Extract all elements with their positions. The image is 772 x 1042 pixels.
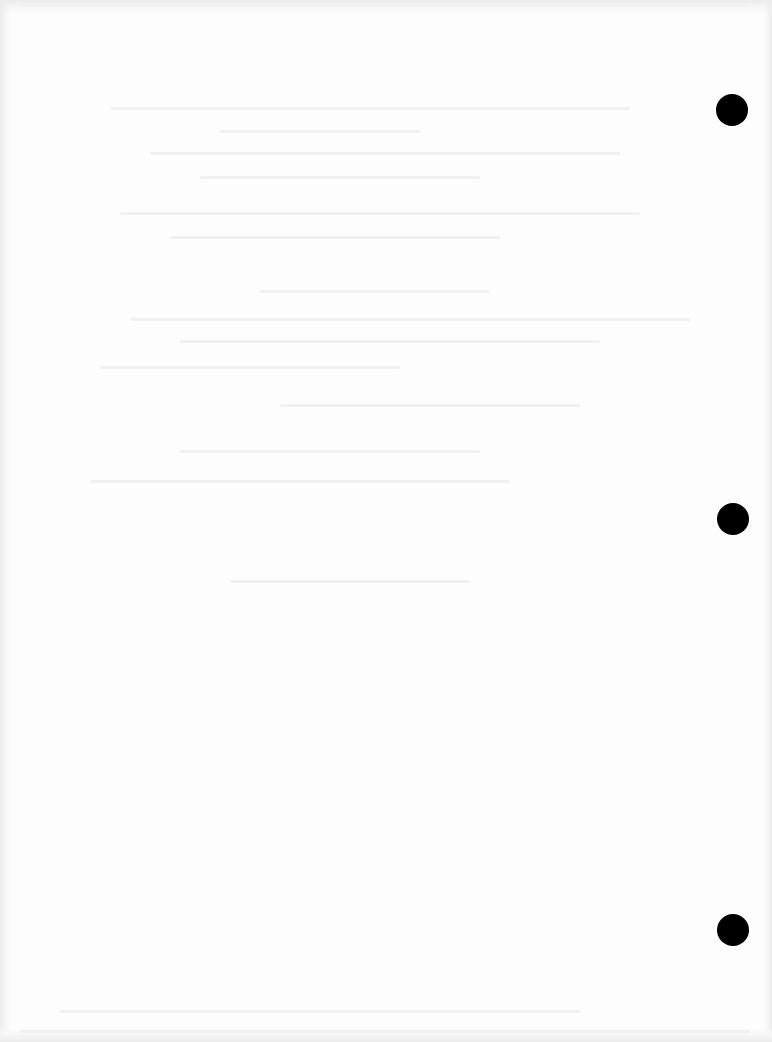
bleed-through-mark [230, 580, 470, 583]
bleed-through-mark [220, 130, 420, 133]
bleed-through-mark [100, 366, 400, 369]
bleed-through-mark [150, 152, 620, 155]
bleed-through-mark [20, 1030, 750, 1033]
scanned-page [0, 0, 772, 1042]
bleed-through-mark [130, 318, 690, 321]
bleed-through-mark [260, 290, 490, 293]
punch-hole-top [716, 94, 748, 126]
bleed-through-mark [20, 4, 750, 7]
scan-edge-right [764, 0, 772, 1042]
bleed-through-mark [170, 236, 500, 239]
bleed-through-mark [180, 450, 480, 453]
bleed-through-mark [110, 107, 630, 110]
bleed-through-mark [90, 480, 510, 483]
bleed-through-mark [180, 340, 600, 343]
bleed-through-mark [60, 1010, 580, 1013]
bleed-through-mark [200, 176, 480, 179]
bleed-through-mark [280, 404, 580, 407]
punch-hole-bottom [717, 914, 749, 946]
scan-edge-left [0, 0, 10, 1042]
scan-edge-top [0, 0, 772, 14]
bleed-through-mark [120, 212, 640, 215]
punch-hole-middle [717, 503, 749, 535]
